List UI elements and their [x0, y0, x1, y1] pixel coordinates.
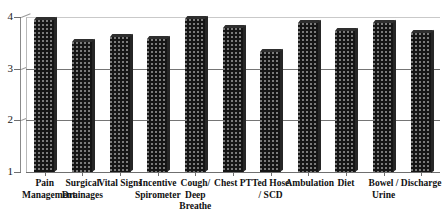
- x-axis-category-label: Discharge: [398, 178, 444, 190]
- bar: [223, 28, 244, 172]
- y-axis-tick-label: 1: [0, 166, 13, 177]
- bar-top-face: [223, 25, 245, 28]
- bar-side-face: [318, 20, 321, 172]
- bar-side-face: [355, 28, 358, 172]
- bar-side-face: [205, 15, 208, 172]
- x-axis-tick: [195, 172, 196, 176]
- bar: [147, 39, 168, 172]
- bar: [373, 23, 394, 172]
- bar: [34, 20, 55, 172]
- bar-top-face: [110, 34, 132, 37]
- x-axis-tick: [308, 172, 309, 176]
- bar-side-face: [280, 49, 283, 172]
- y-axis-line: [20, 17, 21, 172]
- plot-area: [26, 10, 440, 172]
- x-axis-tick: [45, 172, 46, 176]
- bar-side-face: [130, 33, 133, 172]
- x-axis-tick: [233, 172, 234, 176]
- bar-top-face: [72, 39, 94, 42]
- bar-side-face: [243, 25, 246, 172]
- y-axis-tick: [14, 172, 21, 173]
- bar-side-face: [92, 39, 95, 172]
- bar-top-face: [185, 16, 207, 19]
- bar-top-face: [298, 20, 320, 23]
- bar: [110, 37, 131, 172]
- x-axis-tick: [384, 172, 385, 176]
- x-axis-tick: [82, 172, 83, 176]
- bar-top-face: [411, 30, 433, 33]
- x-axis-tick: [346, 172, 347, 176]
- y-axis-tick-label: 4: [0, 11, 13, 22]
- bar-side-face: [167, 35, 170, 172]
- bar: [335, 31, 356, 172]
- y-axis-tick-label: 3: [0, 63, 13, 74]
- bar-side-face: [431, 29, 434, 172]
- bar: [72, 42, 93, 172]
- x-axis-tick: [158, 172, 159, 176]
- bar: [185, 19, 206, 172]
- x-axis-tick: [120, 172, 121, 176]
- bar: [298, 23, 319, 172]
- bar: [260, 52, 281, 172]
- bar-side-face: [54, 16, 57, 172]
- y-axis-tick: [14, 120, 21, 121]
- bar-side-face: [393, 20, 396, 172]
- x-axis-tick: [271, 172, 272, 176]
- bar-chart: 4321 Pain ManagementSurgical DrainagesVi…: [0, 0, 446, 218]
- y-axis-tick: [14, 17, 21, 18]
- bar: [411, 33, 432, 173]
- y-axis-tick-label: 2: [0, 114, 13, 125]
- x-axis-tick: [421, 172, 422, 176]
